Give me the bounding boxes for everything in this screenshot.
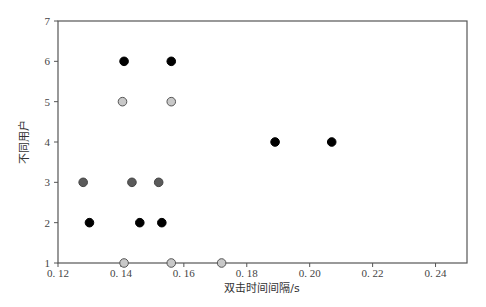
- data-point: [167, 259, 176, 268]
- y-axis-ticks: 1234567: [45, 15, 59, 269]
- data-point: [120, 57, 129, 66]
- data-points: [79, 57, 336, 267]
- x-tick-label: 0. 24: [425, 267, 448, 279]
- data-point: [167, 97, 176, 106]
- y-tick-label: 2: [45, 217, 51, 229]
- data-point: [136, 218, 145, 227]
- data-point: [271, 138, 280, 147]
- x-tick-label: 0. 14: [110, 267, 133, 279]
- x-axis-label: 双击时间间隔/s: [224, 282, 300, 295]
- x-tick-label: 0. 12: [47, 267, 69, 279]
- y-axis-label: 不同用户: [17, 120, 31, 164]
- data-point: [327, 138, 336, 147]
- y-tick-label: 7: [45, 15, 51, 27]
- plot-frame: [58, 21, 467, 263]
- data-point: [167, 57, 176, 66]
- data-point: [79, 178, 88, 187]
- data-point: [85, 218, 94, 227]
- y-tick-label: 4: [45, 136, 51, 148]
- x-tick-label: 0. 20: [299, 267, 322, 279]
- x-tick-label: 0. 18: [236, 267, 259, 279]
- y-tick-label: 6: [45, 55, 51, 67]
- data-point: [120, 259, 129, 268]
- y-tick-label: 1: [45, 257, 51, 269]
- x-axis-ticks: 0. 120. 140. 160. 180. 200. 220. 24: [47, 263, 447, 279]
- y-tick-label: 3: [45, 176, 51, 188]
- data-point: [118, 97, 127, 106]
- x-tick-label: 0. 16: [173, 267, 196, 279]
- scatter-chart: 0. 120. 140. 160. 180. 200. 220. 24 1234…: [0, 0, 486, 307]
- data-point: [158, 218, 167, 227]
- data-point: [128, 178, 137, 187]
- data-point: [154, 178, 163, 187]
- y-tick-label: 5: [45, 96, 51, 108]
- x-tick-label: 0. 22: [362, 267, 384, 279]
- data-point: [217, 259, 226, 268]
